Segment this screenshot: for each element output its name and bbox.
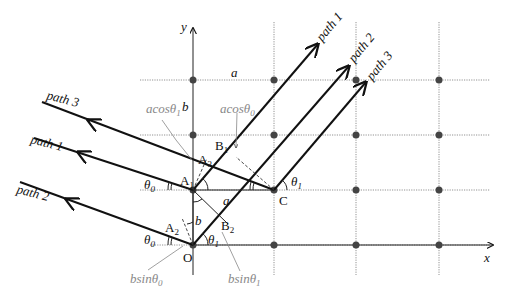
label-segment-b: b	[195, 213, 202, 228]
label-C: C	[279, 193, 288, 208]
label-bsin-theta0: bsinθ0	[130, 271, 163, 288]
label-outgoing-path-1: path 1	[312, 9, 345, 45]
label-O: O	[183, 250, 192, 265]
arrow-head-icon	[66, 199, 68, 200]
label-incoming-path-3: path 3	[44, 87, 81, 110]
label-A3: A3	[198, 152, 212, 169]
label-spacing-b: b	[182, 99, 189, 114]
label-A1: A1	[180, 173, 194, 190]
lattice-node	[271, 77, 278, 84]
arrow-head-icon	[78, 152, 80, 153]
label-B1: B1	[215, 138, 228, 155]
label-segment-a: a	[223, 193, 230, 208]
lattice-node	[353, 132, 360, 139]
lattice-node	[190, 132, 197, 139]
outgoing-path-2	[193, 66, 349, 245]
label-acos-theta1: acosθ1	[146, 101, 181, 118]
diffraction-path-diagram: y x	[0, 0, 509, 300]
angle-arc-theta0-A1-inner	[171, 183, 172, 190]
lattice-node	[271, 242, 278, 249]
leader-acos-theta0	[236, 113, 237, 148]
angle-arc-A2	[187, 222, 193, 224]
label-outgoing-path-3: path 3	[362, 48, 396, 84]
label-theta1-C: θ1	[291, 174, 302, 191]
lattice-node	[353, 242, 360, 249]
lattice-node	[436, 132, 443, 139]
lattice-node	[353, 187, 360, 194]
lattice-node	[353, 77, 360, 84]
angle-arc-theta1-C	[282, 180, 287, 190]
label-theta0-A1: θ0	[144, 177, 155, 194]
label-incoming-path-2: path 2	[14, 181, 51, 204]
lattice-node	[190, 77, 197, 84]
angle-arc-theta0-A1	[168, 182, 169, 190]
label-incoming-path-1: path 1	[28, 131, 64, 154]
arrow-head-icon	[88, 120, 90, 121]
angle-arc-theta0-O-inner	[171, 238, 172, 245]
lattice-node	[436, 77, 443, 84]
label-B2: B2	[221, 218, 234, 235]
x-axis-label: x	[483, 250, 490, 265]
angle-arc-C-in	[250, 182, 251, 190]
label-theta0-O: θ0	[144, 232, 155, 249]
perp-C-B1	[236, 157, 274, 190]
lattice-node	[271, 132, 278, 139]
incoming-rays	[20, 102, 274, 245]
lattice-node	[436, 242, 443, 249]
leader-bsin-theta0	[148, 246, 183, 270]
leader-bsin-theta1	[222, 232, 240, 271]
y-axis-label: y	[179, 19, 187, 34]
angle-arc-A1-down	[193, 199, 202, 202]
label-A2: A2	[165, 220, 179, 237]
label-spacing-a: a	[231, 65, 238, 80]
label-bsin-theta1: bsinθ1	[228, 271, 261, 288]
outgoing-path-labels: path 1 path 2 path 3	[312, 9, 396, 84]
angle-arc-C-in-inner	[253, 183, 254, 190]
label-theta1-O: θ1	[208, 232, 219, 249]
lattice-node	[436, 187, 443, 194]
path-difference-labels: acosθ1 acosθ0 bsinθ0 bsinθ1	[130, 101, 261, 288]
angle-arc-theta0-O	[168, 237, 169, 245]
label-acos-theta0: acosθ0	[220, 101, 255, 118]
